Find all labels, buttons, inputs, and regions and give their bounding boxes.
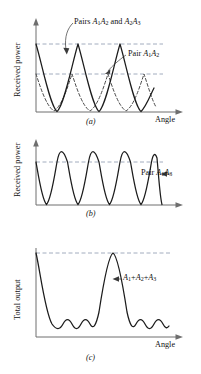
x-axis-arrowhead [176,334,184,340]
panel-a: Received power Pairs A1A2 and A2A3 Pair … [0,0,201,134]
leader-pairs-a1a2-a2a3 [65,23,73,50]
panel-c-caption: (c) [86,354,95,362]
panel-c: Total output A1+A2+A3 Angle (c) [0,240,201,374]
panel-b-plot [0,134,201,240]
annotation-pair-a1a3: Pair A1A3 [141,169,172,177]
panel-a-caption: (a) [86,118,96,126]
x-axis-arrowhead [176,109,184,115]
panel-b: Received power Pair A1A3 (b) [0,134,201,240]
figure-container: Received power Pairs A1A2 and A2A3 Pair … [0,0,201,374]
y-axis-arrowhead [33,139,39,147]
y-axis-arrowhead [33,18,39,26]
annotation-pair-a1a2: Pair A1A2 [128,50,159,58]
panel-b-ylabel: Received power [14,143,22,197]
panel-c-xlabel: Angle [155,341,175,349]
panel-c-ylabel: Total output [14,279,22,320]
leader-pairs-arrowhead [63,48,69,55]
annotation-sum-a1-a2-a3: A1+A2+A3 [123,274,156,282]
leader-pair-a1a2-arrowhead [105,69,111,74]
curve-pair-a1a3 [36,152,152,205]
panel-c-plot [0,240,201,374]
annotation-pairs-a1a2-a2a3: Pairs A1A2 and A2A3 [74,18,140,26]
curve-total-output [36,253,169,329]
leader-total-output-arrowhead [113,276,120,281]
panel-a-ylabel: Received power [14,43,22,97]
x-axis-arrowhead [176,202,184,208]
panel-a-xlabel: Angle [155,116,175,124]
panel-b-caption: (b) [86,210,96,218]
